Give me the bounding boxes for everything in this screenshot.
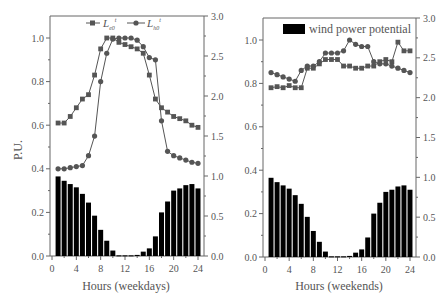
circle-marker-icon bbox=[389, 63, 394, 68]
x-tick-label: 0 bbox=[263, 264, 268, 275]
circle-marker-icon bbox=[98, 79, 103, 84]
wind-bar bbox=[371, 214, 376, 257]
circle-marker-icon bbox=[55, 166, 60, 171]
circle-marker-icon bbox=[347, 37, 352, 42]
x-tick-label: 24 bbox=[405, 264, 415, 275]
circle-marker-icon bbox=[128, 35, 133, 40]
circle-marker-icon bbox=[268, 70, 273, 75]
circle-marker-icon bbox=[147, 55, 152, 60]
y-tick-label-left: 0.4 bbox=[245, 165, 258, 176]
weekend-panel: 048121620240.00.20.40.60.81.00.00.51.01.… bbox=[245, 13, 436, 276]
x-tick-label: 8 bbox=[311, 264, 316, 275]
square-marker-icon bbox=[281, 85, 286, 90]
y-tick-label-right: 3.0 bbox=[211, 11, 224, 22]
square-marker-icon bbox=[123, 42, 128, 47]
x-tick-label: 12 bbox=[120, 263, 130, 274]
wind-bar bbox=[56, 176, 61, 256]
wind-bar bbox=[98, 230, 103, 256]
square-marker-icon bbox=[165, 110, 170, 115]
wind-bar bbox=[408, 190, 413, 257]
circle-marker-icon bbox=[359, 44, 364, 49]
wind-bar bbox=[165, 202, 170, 257]
y-tick-label-right: 1.5 bbox=[211, 131, 224, 142]
x-tick-label: 20 bbox=[381, 264, 391, 275]
wind-bar bbox=[311, 231, 316, 257]
square-marker-icon bbox=[177, 116, 182, 121]
square-marker-icon bbox=[141, 51, 146, 56]
square-marker-icon bbox=[56, 121, 61, 126]
wind-bar bbox=[365, 237, 370, 257]
y-tick-label-right: 0.0 bbox=[211, 251, 224, 262]
square-marker-icon bbox=[323, 57, 328, 62]
square-marker-icon bbox=[183, 118, 188, 123]
square-marker-icon bbox=[62, 121, 67, 126]
square-marker-icon bbox=[190, 123, 195, 128]
circle-marker-icon bbox=[62, 166, 67, 171]
circle-marker-icon bbox=[305, 63, 310, 68]
y-tick-label-right: 1.0 bbox=[423, 172, 436, 183]
y-tick-label-left: 0.8 bbox=[32, 76, 45, 87]
circle-marker-icon bbox=[189, 160, 194, 165]
circle-marker-icon bbox=[86, 153, 91, 158]
square-marker-icon bbox=[275, 84, 280, 89]
circle-marker-icon bbox=[293, 79, 298, 84]
circle-marker-icon bbox=[274, 72, 279, 77]
wind-bar bbox=[377, 203, 382, 257]
wind-bar bbox=[189, 184, 194, 256]
square-marker-icon bbox=[371, 64, 376, 69]
y-tick-label-left: 0.0 bbox=[245, 252, 258, 263]
circle-marker-icon bbox=[80, 163, 85, 168]
wind-bar bbox=[159, 212, 164, 256]
wind-bar bbox=[293, 195, 298, 257]
wind-bar bbox=[323, 252, 328, 257]
y-tick-label-right: 2.5 bbox=[211, 51, 224, 62]
x-tick-label: 20 bbox=[169, 263, 179, 274]
y-tick-label-left: 0.8 bbox=[245, 78, 258, 89]
wind-bar bbox=[153, 236, 158, 256]
square-marker-icon bbox=[383, 57, 388, 62]
circle-marker-icon bbox=[299, 68, 304, 73]
y-tick-label-left: 0.6 bbox=[245, 121, 258, 132]
circle-marker-icon bbox=[311, 63, 316, 68]
y-tick-label-left: 0.2 bbox=[245, 208, 258, 219]
square-marker-icon bbox=[389, 59, 394, 64]
wind-bar bbox=[299, 204, 304, 257]
square-marker-icon bbox=[92, 73, 97, 78]
x-tick-label: 8 bbox=[98, 263, 103, 274]
x-axis-label-weekdays: Hours (weekdays) bbox=[82, 279, 170, 293]
wind-bar bbox=[359, 249, 364, 257]
wind-bar bbox=[335, 256, 340, 257]
y-axis-label: P.U. bbox=[11, 140, 25, 160]
y-tick-label-left: 1.0 bbox=[32, 33, 45, 44]
circle-marker-icon bbox=[371, 59, 376, 64]
wind-bar bbox=[123, 255, 128, 256]
weekday-panel: 048121620240.00.20.40.60.81.00.00.51.01.… bbox=[32, 11, 224, 275]
wind-bar bbox=[116, 255, 121, 256]
circle-marker-icon bbox=[159, 118, 164, 123]
circle-marker-icon bbox=[383, 61, 388, 66]
x-tick-label: 0 bbox=[50, 263, 55, 274]
square-marker-icon bbox=[98, 47, 103, 52]
wind-bar bbox=[395, 186, 400, 257]
y-tick-label-left: 0.0 bbox=[32, 251, 45, 262]
circle-marker-icon bbox=[353, 42, 358, 47]
wind-bar bbox=[401, 185, 406, 257]
square-marker-icon bbox=[353, 66, 358, 71]
wind-bar bbox=[196, 188, 201, 256]
wind-bar bbox=[275, 182, 280, 257]
square-marker-icon bbox=[90, 21, 95, 26]
wind-bar bbox=[329, 256, 334, 257]
circle-marker-icon bbox=[407, 70, 412, 75]
circle-marker-icon bbox=[165, 149, 170, 154]
square-marker-icon bbox=[86, 92, 91, 97]
x-tick-label: 24 bbox=[193, 263, 203, 274]
circle-marker-icon bbox=[395, 66, 400, 71]
square-marker-icon bbox=[104, 36, 109, 41]
wind-bar bbox=[62, 181, 67, 256]
circle-marker-icon bbox=[92, 134, 97, 139]
wind-bar bbox=[353, 253, 358, 257]
wind-bar bbox=[183, 185, 188, 256]
wind-bar bbox=[110, 251, 115, 256]
square-marker-icon bbox=[347, 64, 352, 69]
x-tick-label: 4 bbox=[287, 264, 292, 275]
